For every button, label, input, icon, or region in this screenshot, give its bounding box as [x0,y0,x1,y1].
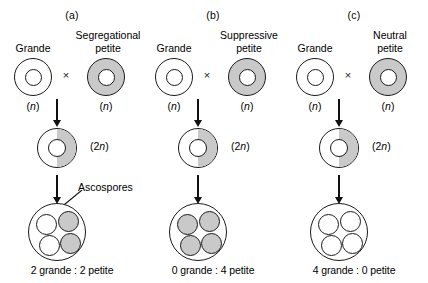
panel-b: (b) Grande Suppressive petite × (n) (n) … [143,0,283,283]
parent-name-grande-b: Grande [144,42,204,55]
ascospore [39,235,60,256]
panel-a: (a) Grande Segregational petite × (n) (n… [2,0,142,283]
parent-name-petite-c: Neutral petite [356,29,424,54]
nucleus [307,69,324,86]
parent-name-grande-a: Grande [3,42,63,55]
nucleus [25,69,42,86]
grande-cell-a [14,58,52,96]
ascospore [199,211,220,232]
ploidy-zygote-c: (2n) [372,140,412,152]
ploidy-zygote-a: (2n) [90,140,130,152]
nucleus [380,69,397,86]
petite-cell-a [87,58,125,96]
ascus-b [169,203,227,261]
arrow-to-ascus-c [338,175,340,198]
petite-cross-figure: (a) Grande Segregational petite × (n) (n… [0,0,428,283]
arrow-to-ascus-a [56,175,58,198]
ploidy-grande-c: (n) [296,100,334,112]
parent-name-grande-c: Grande [285,42,345,55]
ploidy-petite-c: (n) [369,100,407,112]
nucleus [330,139,348,157]
panel-label-b: (b) [143,9,283,21]
grande-cell-b [155,58,193,96]
ploidy-grande-a: (n) [14,100,52,112]
arrow-to-zygote-c [338,99,340,121]
ploidy-petite-b: (n) [228,100,266,112]
nucleus [166,69,183,86]
zygote-cell-c [319,128,359,168]
nucleus [98,69,115,86]
cross-symbol-a: × [57,69,75,81]
nucleus [48,139,66,157]
ascus-a [28,203,86,261]
petite-cell-b [228,58,266,96]
grande-cell-c [296,58,334,96]
ratio-b: 0 grande : 4 petite [143,264,283,276]
arrow-to-zygote-a [56,99,58,121]
parent-name-petite-b: Suppressive petite [215,29,283,54]
ascospore [342,233,363,254]
ascospore [180,235,201,256]
arrow-to-zygote-b [197,99,199,121]
panel-label-a: (a) [2,9,142,21]
ascospores-label: Ascospores [78,181,133,193]
ratio-c: 4 grande : 0 petite [284,264,424,276]
ascospore [321,235,342,256]
ploidy-zygote-b: (2n) [231,140,271,152]
ploidy-petite-a: (n) [87,100,125,112]
zygote-cell-b [178,128,218,168]
ratio-a: 2 grande : 2 petite [2,264,142,276]
ascospore [340,211,361,232]
panel-c: (c) Grande Neutral petite × (n) (n) (2n)… [284,0,424,283]
nucleus [239,69,256,86]
arrow-to-ascus-b [197,175,199,198]
cross-symbol-b: × [198,69,216,81]
cross-symbol-c: × [339,69,357,81]
ascospore [58,211,79,232]
nucleus [189,139,207,157]
ascospore [60,233,81,254]
ascospore [177,214,198,235]
ploidy-grande-b: (n) [155,100,193,112]
petite-cell-c [369,58,407,96]
ascospore [36,214,57,235]
panel-label-c: (c) [284,9,424,21]
ascus-c [310,203,368,261]
ascospore [318,214,339,235]
zygote-cell-a [37,128,77,168]
parent-name-petite-a: Segregational petite [74,29,142,54]
ascospore [201,233,222,254]
